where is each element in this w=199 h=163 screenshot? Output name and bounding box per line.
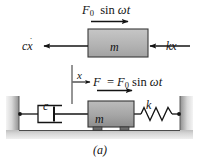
ground-surface [6, 130, 193, 139]
mass-label-fbd: m [110, 41, 119, 53]
figure-caption: (a) [93, 144, 107, 156]
spring-element [134, 108, 181, 121]
omega-t-system: ωt [150, 75, 162, 89]
mass-label-system: m [95, 113, 104, 125]
sin-text-system: sin [129, 75, 150, 89]
damper-label: c [43, 100, 48, 112]
spring-force-label: kx [166, 40, 177, 52]
force-f-symbol: F [93, 75, 101, 89]
sin-text: sin [97, 3, 118, 17]
force-symbol: F0 [82, 3, 94, 17]
vibration-system-figure: F0 sin ωt cx· m kx x F = F0 sin ωt c m k… [0, 0, 199, 163]
spring-label: k [146, 99, 151, 111]
displacement-label: x [77, 70, 82, 81]
force-amplitude: F0 [117, 75, 129, 89]
damping-force-label: cx· [22, 40, 33, 52]
omega-t: ωt [118, 3, 130, 17]
applied-force-label-system: F = F0 sin ωt [93, 76, 162, 90]
damper-element [18, 106, 88, 123]
equals-sign: = [104, 75, 117, 89]
applied-force-label-fbd: F0 sin ωt [82, 4, 130, 18]
